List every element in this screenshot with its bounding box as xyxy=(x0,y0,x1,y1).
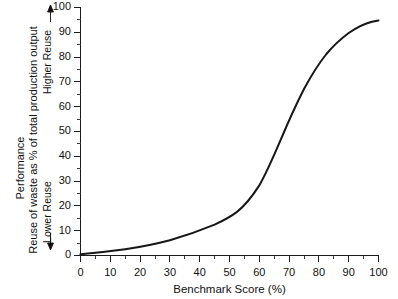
reuse-performance-curve xyxy=(81,21,379,255)
chart-canvas: 0 10 20 30 40 50 60 70 80 90 100 xyxy=(0,0,398,299)
y-tick-label: 20 xyxy=(59,199,71,211)
x-tick-label: 40 xyxy=(194,266,206,278)
axes-group xyxy=(81,7,379,256)
x-tick-label: 50 xyxy=(223,266,235,278)
y-tick-label: 60 xyxy=(59,100,71,112)
x-axis-tick-labels: 0 10 20 30 40 50 60 70 80 90 100 xyxy=(77,266,387,278)
y-tick-label: 100 xyxy=(53,0,71,12)
y-axis-direction-low-label: Lower Reuse xyxy=(41,181,53,243)
x-tick-label: 60 xyxy=(253,266,265,278)
x-tick-label: 0 xyxy=(77,266,83,278)
y-axis-direction-high-label: Higher Reuse xyxy=(41,30,53,94)
y-tick-label: 40 xyxy=(59,149,71,161)
y-axis-outer-title: Performance xyxy=(14,137,26,200)
y-tick-label: 0 xyxy=(65,248,71,260)
y-tick-label: 80 xyxy=(59,50,71,62)
x-tick-label: 80 xyxy=(313,266,325,278)
y-tick-label: 10 xyxy=(59,224,71,236)
chart-figure: 0 10 20 30 40 50 60 70 80 90 100 xyxy=(0,0,398,299)
y-axis-tick-labels: 0 10 20 30 40 50 60 70 80 90 100 xyxy=(53,0,71,260)
y-tick-label: 30 xyxy=(59,174,71,186)
x-tick-label: 70 xyxy=(283,266,295,278)
y-tick-label: 50 xyxy=(59,124,71,136)
x-axis-title: Benchmark Score (%) xyxy=(173,283,286,295)
y-tick-label: 70 xyxy=(59,75,71,87)
x-tick-label: 100 xyxy=(369,266,387,278)
x-tick-label: 90 xyxy=(343,266,355,278)
x-tick-label: 30 xyxy=(164,266,176,278)
x-tick-label: 20 xyxy=(134,266,146,278)
y-tick-label: 90 xyxy=(59,25,71,37)
y-axis-title: Reuse of waste as % of total production … xyxy=(27,26,39,253)
x-tick-label: 10 xyxy=(104,266,116,278)
